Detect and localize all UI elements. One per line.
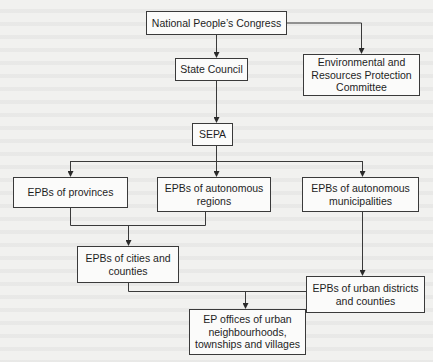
node-label-line1: EPBs of cities and [85, 252, 170, 265]
node-label-line1: EP offices of urban [203, 313, 291, 326]
node-epbs-of-autonomous-regions: EPBs of autonomous regions [157, 177, 271, 212]
node-epbs-of-provinces: EPBs of provinces [13, 177, 128, 208]
node-sepa: SEPA [192, 123, 233, 146]
node-epbs-of-urban-districts-and-counties: EPBs of urban districts and counties [306, 276, 425, 313]
edge-npc-eprpc [286, 23, 362, 53]
node-epbs-of-cities-and-counties: EPBs of cities and counties [77, 246, 179, 283]
node-label-line1: EPBs of autonomous [165, 182, 264, 195]
node-label-line1: EPBs of autonomous [311, 182, 410, 195]
node-label-line1: EPBs of urban districts [312, 282, 418, 295]
node-label-line2: Resources Protection [311, 69, 411, 82]
node-label-line3: Committee [336, 81, 387, 94]
node-label-line3: townships and villages [195, 338, 300, 351]
node-label-line2: neighbourhoods, [208, 326, 286, 339]
node-label: State Council [180, 63, 242, 76]
node-label-line1: Environmental and [318, 56, 406, 69]
node-epbs-of-autonomous-municipalities: EPBs of autonomous municipalities [302, 177, 419, 212]
node-label: National People’s Congress [152, 17, 281, 30]
node-label-line2: counties [108, 265, 147, 278]
node-label-line2: and counties [336, 295, 396, 308]
node-state-council: State Council [175, 58, 248, 81]
node-ep-offices-of-urban-neighbourhoods: EP offices of urban neighbourhoods, town… [189, 309, 306, 355]
node-environmental-resources-protection-committee: Environmental and Resources Protection C… [303, 54, 420, 96]
node-national-peoples-congress: National People’s Congress [146, 11, 287, 35]
node-label: EPBs of provinces [28, 186, 114, 199]
node-label-line2: regions [197, 195, 231, 208]
node-label-line2: municipalities [329, 195, 392, 208]
node-label: SEPA [199, 128, 226, 141]
